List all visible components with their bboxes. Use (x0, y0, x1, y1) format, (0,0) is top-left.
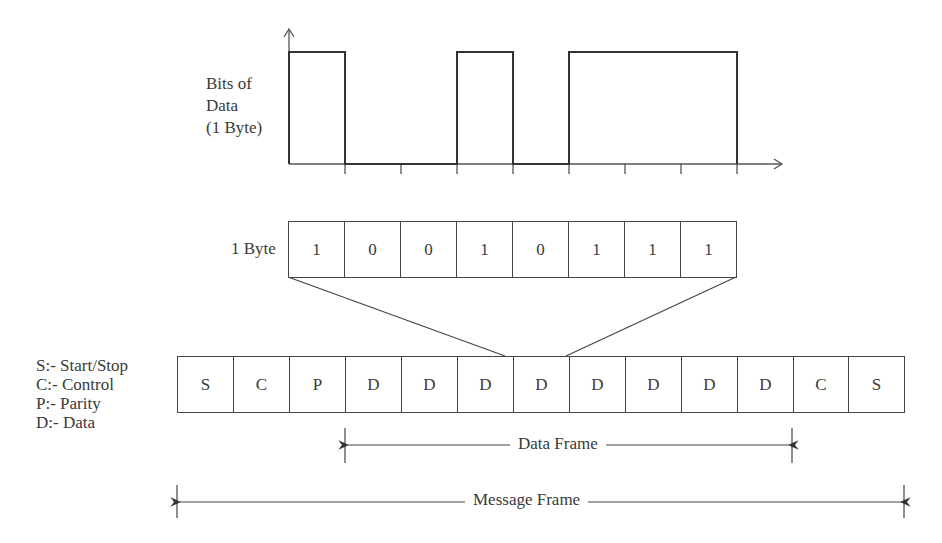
frame-cell-data: D (513, 356, 570, 413)
legend: S:- Start/Stop C:- Control P:- Parity D:… (36, 356, 128, 432)
byte-cell: 1 (456, 221, 513, 278)
byte-cell: 0 (344, 221, 401, 278)
byte-cell: 1 (680, 221, 737, 278)
frame-cell-control: C (233, 356, 290, 413)
legend-item: D:- Data (36, 413, 128, 432)
legend-item: P:- Parity (36, 394, 128, 413)
frame-cell-data: D (737, 356, 794, 413)
frame-cell-stop: S (848, 356, 905, 413)
byte-cell: 0 (512, 221, 569, 278)
byte-cell: 1 (624, 221, 681, 278)
frame-cell-data: D (681, 356, 738, 413)
y-label-line: Bits of (206, 73, 262, 95)
message-frame-label: Message Frame (465, 490, 588, 510)
expansion-line-left (288, 277, 505, 356)
frame-cell-parity: P (289, 356, 346, 413)
byte-cell: 1 (568, 221, 625, 278)
frame-cell-data: D (625, 356, 682, 413)
bit-waveform (289, 52, 737, 164)
frame-cell-data: D (401, 356, 458, 413)
byte-cell: 0 (400, 221, 457, 278)
y-label-line: (1 Byte) (206, 117, 262, 139)
frame-cell-data: D (569, 356, 626, 413)
legend-item: C:- Control (36, 375, 128, 394)
waveform-y-label: Bits of Data (1 Byte) (206, 73, 262, 139)
frame-cell-data: D (457, 356, 514, 413)
frame-cell-control: C (793, 356, 849, 413)
frame-cell-start: S (177, 356, 234, 413)
waveform-axes (284, 29, 782, 174)
expansion-line-right (566, 277, 736, 356)
frame-cell-data: D (345, 356, 402, 413)
legend-item: S:- Start/Stop (36, 356, 128, 375)
y-label-line: Data (206, 95, 262, 117)
data-frame-label: Data Frame (510, 434, 606, 454)
byte-cell: 1 (288, 221, 345, 278)
byte-label: 1 Byte (231, 239, 276, 259)
